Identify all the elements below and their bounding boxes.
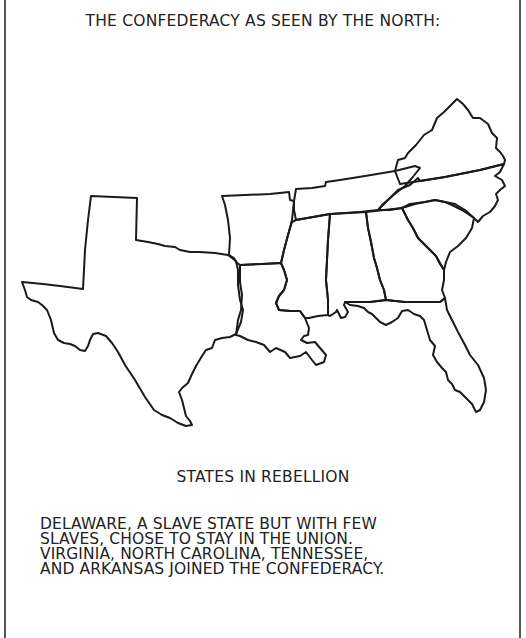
state-florida: [345, 298, 486, 412]
state-mississippi: [276, 214, 330, 318]
note-line: AND ARKANSAS JOINED THE CONFEDERACY.: [40, 562, 510, 577]
state-georgia: [366, 208, 445, 302]
map-caption: STATES IN REBELLION: [0, 468, 526, 486]
state-virginia: [395, 99, 505, 184]
state-louisiana: [236, 263, 326, 365]
state-texas: [22, 196, 243, 426]
explanatory-note: DELAWARE, A SLAVE STATE BUT WITH FEW SLA…: [40, 517, 510, 577]
